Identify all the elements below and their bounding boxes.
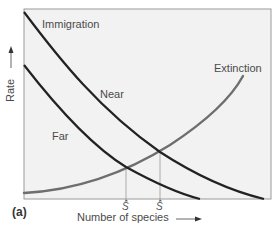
immigration-label: Immigration (42, 18, 99, 30)
extinction-label: Extinction (214, 62, 262, 74)
x-axis-label: Number of species (77, 211, 169, 223)
y-axis-label: Rate (4, 79, 16, 102)
panel-label: (a) (12, 205, 27, 219)
near-label: Near (100, 88, 124, 100)
island-biogeography-chart (0, 0, 275, 239)
y-axis-arrowhead-icon (9, 46, 14, 53)
plot-area (24, 9, 271, 199)
x-axis-arrowhead-icon (195, 217, 202, 222)
far-label: Far (52, 130, 69, 142)
